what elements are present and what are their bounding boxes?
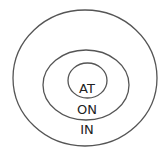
label-at: AT — [79, 81, 95, 96]
label-in: IN — [80, 122, 94, 137]
label-on: ON — [77, 102, 97, 117]
concentric-diagram: AT ON IN — [0, 0, 166, 152]
